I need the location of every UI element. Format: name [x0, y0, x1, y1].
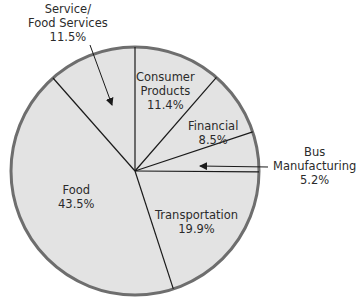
label-service: Service/ Food Services 11.5% [28, 2, 108, 44]
label-consumer-products: Consumer Products 11.4% [136, 70, 195, 112]
divider-line [135, 171, 259, 172]
label-bus-manufacturing: Bus Manufacturing 5.2% [273, 145, 356, 187]
label-transportation: Transportation 19.9% [155, 208, 238, 236]
label-food: Food 43.5% [58, 183, 95, 211]
label-financial: Financial 8.5% [188, 119, 238, 147]
